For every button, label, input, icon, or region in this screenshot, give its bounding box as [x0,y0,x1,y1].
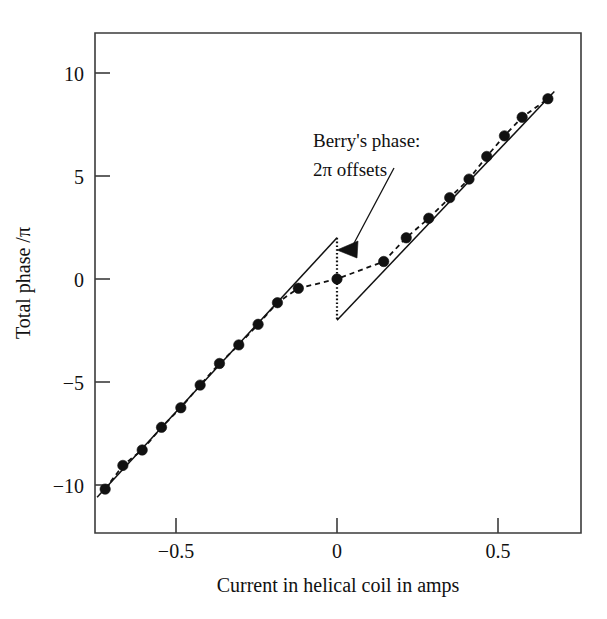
data-point [499,131,509,141]
data-point [234,340,244,350]
data-point [401,233,411,243]
data-point [272,297,282,307]
annotation-line-1: Berry's phase: [313,130,420,151]
figure-container: 10 5 0 −5 −10 −0.5 0 0.5 Current in heli… [0,0,607,619]
x-axis-tick-labels: −0.5 0 0.5 [158,540,511,562]
data-point [214,358,224,368]
berry-phase-chart: 10 5 0 −5 −10 −0.5 0 0.5 Current in heli… [0,0,607,619]
data-point [100,484,110,494]
x-tick-label-05: 0.5 [486,540,511,562]
data-point [332,274,342,284]
data-point [464,174,474,184]
data-point [517,112,527,122]
x-tick-label-neg05: −0.5 [158,540,194,562]
data-point [118,460,128,470]
data-point [445,192,455,202]
data-point [424,213,434,223]
data-point [253,319,263,329]
annotation-line-2: 2π offsets [313,159,387,180]
data-point [482,151,492,161]
data-point [293,283,303,293]
annotation-arrowhead [337,241,358,258]
data-point [156,422,166,432]
y-tick-label-5: 5 [74,166,84,188]
y-tick-label-0: 0 [74,269,84,291]
data-point [543,94,553,104]
berry-phase-annotation: Berry's phase: 2π offsets [313,130,420,180]
annotation-leader [337,168,394,258]
data-point [137,445,147,455]
y-axis-tick-labels: 10 5 0 −5 −10 [53,63,84,497]
data-point [195,380,205,390]
y-axis-ticks [95,73,110,485]
x-axis-title: Current in helical coil in amps [217,574,460,597]
data-point [176,403,186,413]
data-point-markers [100,94,553,495]
y-tick-label-neg5: −5 [63,372,84,394]
data-point [378,256,388,266]
y-tick-label-10: 10 [64,63,84,85]
y-tick-label-neg10: −10 [53,475,84,497]
x-tick-label-0: 0 [332,540,342,562]
y-axis-title: Total phase /π [12,227,35,339]
x-axis-ticks [176,518,498,533]
